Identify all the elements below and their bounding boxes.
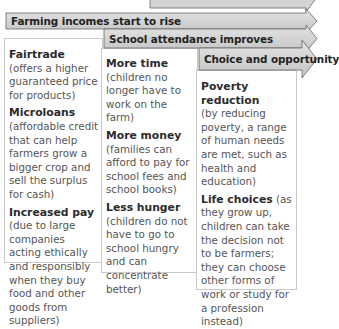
item-desc: (children no longer have to work on the … bbox=[106, 71, 181, 124]
item-desc: (by reducing poverty, a range of human n… bbox=[201, 107, 287, 187]
item-desc: (as they grow up, children can take the … bbox=[201, 193, 292, 327]
stage-2-banner: School attendance improves bbox=[104, 29, 317, 48]
stage-2-item-2: More money (families can afford to pay f… bbox=[106, 129, 194, 197]
stage-3-item-1: Poverty reduction (by reducing poverty, … bbox=[201, 80, 293, 189]
stage-1-box: Fairtrade (offers a higher guaranteed pr… bbox=[4, 38, 103, 263]
stage-1-banner: Farming incomes start to rise bbox=[6, 13, 317, 29]
stage-2-title: School attendance improves bbox=[109, 29, 273, 48]
item-term: Fairtrade bbox=[9, 48, 65, 61]
stage-1-title: Farming incomes start to rise bbox=[11, 13, 181, 29]
item-term: Less hunger bbox=[106, 201, 180, 214]
item-term: More time bbox=[106, 57, 168, 70]
item-desc: (due to large companies acting ethically… bbox=[9, 219, 90, 326]
stage-2-item-1: More time (children no longer have to wo… bbox=[106, 57, 194, 125]
item-desc: (affordable credit that can help farmers… bbox=[9, 120, 98, 200]
stage-1-item-1: Fairtrade (offers a higher guaranteed pr… bbox=[9, 48, 99, 102]
stage-3-banner: Choice and opportunity bbox=[199, 48, 317, 70]
stage-3-item-2: Life choices (as they grow up, children … bbox=[201, 193, 293, 329]
item-term: Increased pay bbox=[9, 206, 94, 219]
stage-3-title: Choice and opportunity bbox=[204, 48, 339, 70]
item-desc: (families can afford to pay for school f… bbox=[106, 143, 190, 196]
item-term: Poverty reduction bbox=[201, 80, 259, 107]
item-term: More money bbox=[106, 129, 181, 142]
item-term: Life choices bbox=[201, 193, 273, 206]
stage-3-box: Poverty reduction (by reducing poverty, … bbox=[196, 70, 297, 290]
stage-2-box: More time (children no longer have to wo… bbox=[101, 48, 198, 273]
stage-1-item-3: Increased pay (due to large companies ac… bbox=[9, 206, 99, 328]
top-partial-arrow bbox=[150, 0, 317, 8]
top-partial-arrow-shape bbox=[150, 0, 317, 8]
stage-1-item-2: Microloans (affordable credit that can h… bbox=[9, 106, 99, 201]
item-term: Microloans bbox=[9, 106, 75, 119]
item-desc: (offers a higher guaranteed price for pr… bbox=[9, 62, 98, 101]
stage-2-item-3: Less hunger (children do not have to go … bbox=[106, 201, 194, 296]
item-desc: (children do not have to go to school hu… bbox=[106, 215, 188, 295]
